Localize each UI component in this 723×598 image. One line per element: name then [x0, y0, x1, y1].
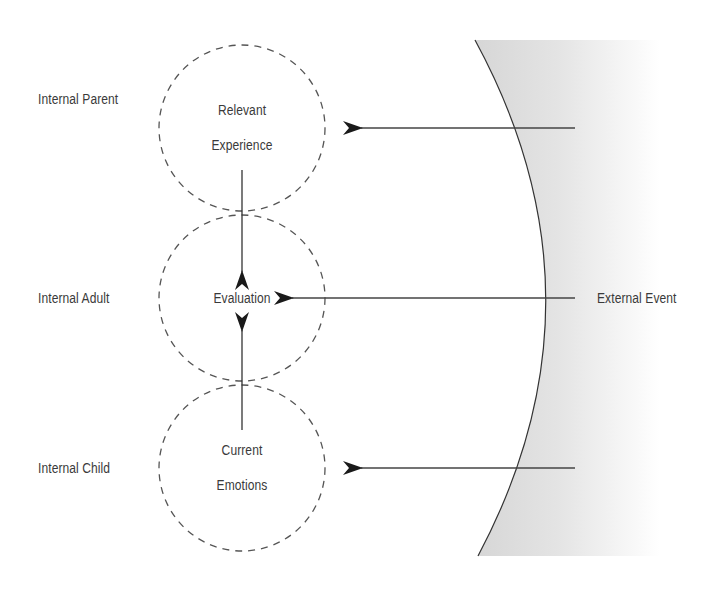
parent-text-line1: Relevant [190, 102, 293, 118]
child-text-line1: Current [190, 442, 293, 458]
label-internal-parent: Internal Parent [38, 91, 118, 107]
parent-text-line2: Experience [190, 137, 293, 153]
label-external-event: External Event [597, 290, 677, 306]
label-internal-adult: Internal Adult [38, 290, 109, 306]
ego-state-diagram: Internal Parent Internal Adult Internal … [0, 0, 723, 598]
adult-text: Evaluation [190, 290, 293, 306]
child-text-line2: Emotions [190, 477, 293, 493]
label-internal-child: Internal Child [38, 460, 110, 476]
